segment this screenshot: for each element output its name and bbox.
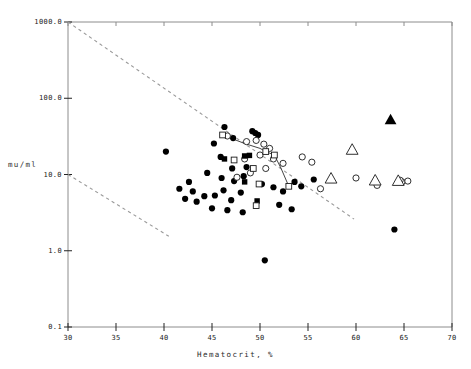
y-tick-label: 1.0 [12,247,62,255]
x-axis-title: Hematocrit, % [0,350,471,359]
x-tick-label: 60 [341,334,371,342]
x-tick-label: 45 [197,334,227,342]
x-tick-label: 55 [293,334,323,342]
x-tick-label: 35 [101,334,131,342]
plot-frame [68,22,452,327]
x-tick-label: 40 [149,334,179,342]
y-tick-label: 1000.0 [12,18,62,26]
y-tick-label: 100.0 [12,94,62,102]
x-tick-label: 50 [245,334,275,342]
data-points [163,114,411,264]
y-tick-label: 0.1 [12,323,62,331]
y-axis-title: mu/ml [8,160,37,169]
x-tick-label: 30 [53,334,83,342]
reference-lines [68,22,354,236]
y-tick-label: 10.0 [12,171,62,179]
axis-ticks [64,22,452,331]
scatter-plot-figure: mu/ml Hematocrit, % 0.11.010.0100.01000.… [0,0,471,369]
plot-canvas [0,0,471,369]
x-tick-label: 70 [437,334,467,342]
x-tick-label: 65 [389,334,419,342]
